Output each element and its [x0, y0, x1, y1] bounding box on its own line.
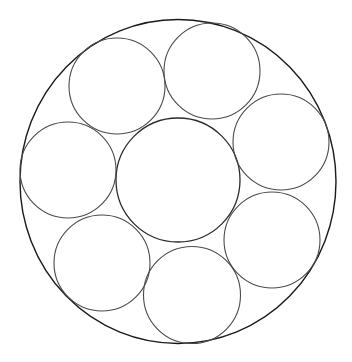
- small-circle-right: [233, 94, 329, 190]
- center-circle: [116, 118, 240, 242]
- small-circles-group: [20, 23, 329, 344]
- small-circle-top-left: [69, 38, 165, 134]
- small-circle-bottom-left: [54, 215, 150, 311]
- small-circle-left: [20, 122, 116, 218]
- small-circle-bottom-right: [224, 192, 320, 288]
- circle-packing-diagram: [0, 0, 352, 362]
- small-circle-bottom: [144, 247, 241, 344]
- small-circle-top-right: [164, 23, 260, 119]
